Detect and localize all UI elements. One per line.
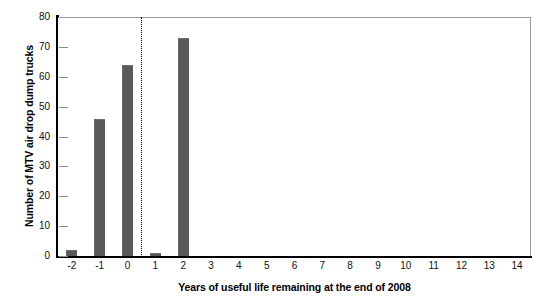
bars-layer xyxy=(58,17,531,256)
x-axis-tick-label: 1 xyxy=(140,259,170,273)
y-axis-tick xyxy=(59,196,68,197)
x-axis-tick-label: 2 xyxy=(168,259,198,273)
y-axis-tick-label: 0 xyxy=(0,251,50,261)
y-axis-tick-label: 40 xyxy=(0,132,50,142)
y-axis-tick-label: 10 xyxy=(0,221,50,231)
x-axis-tick-label: 5 xyxy=(252,259,282,273)
bar xyxy=(66,250,77,256)
x-axis-tick-label: 6 xyxy=(280,259,310,273)
y-axis-tick xyxy=(59,107,68,108)
y-axis-tick xyxy=(59,226,68,227)
y-axis-tick-label: 70 xyxy=(0,42,50,52)
y-axis-tick xyxy=(59,47,68,48)
x-axis-tick-label: 10 xyxy=(391,259,421,273)
bar xyxy=(94,119,105,256)
x-axis-tick-label: 0 xyxy=(113,259,143,273)
x-axis: -2-101234567891011121314 xyxy=(58,259,531,275)
bar xyxy=(150,253,161,256)
bar xyxy=(122,65,133,256)
x-axis-tick-label: 11 xyxy=(419,259,449,273)
y-axis-tick-label: 30 xyxy=(0,161,50,171)
bar-chart: Number of MTV air drop dump trucks -2-10… xyxy=(0,0,557,303)
x-axis-tick-label: 8 xyxy=(335,259,365,273)
x-axis-tick-label: -1 xyxy=(85,259,115,273)
x-axis-tick-label: -2 xyxy=(57,259,87,273)
y-axis-tick xyxy=(59,256,68,257)
reference-line-icon xyxy=(141,17,142,257)
y-axis-tick xyxy=(59,77,68,78)
x-axis-tick-label: 4 xyxy=(224,259,254,273)
x-axis-tick-label: 7 xyxy=(307,259,337,273)
x-axis-tick-label: 13 xyxy=(474,259,504,273)
y-axis-tick-label: 50 xyxy=(0,102,50,112)
x-axis-tick-label: 14 xyxy=(502,259,532,273)
bar xyxy=(178,38,189,256)
x-axis-tick-label: 3 xyxy=(196,259,226,273)
x-axis-tick-label: 12 xyxy=(446,259,476,273)
x-axis-title: Years of useful life remaining at the en… xyxy=(58,281,531,293)
y-axis-tick-label: 80 xyxy=(0,12,50,22)
y-axis-tick-label: 20 xyxy=(0,191,50,201)
x-axis-tick-label: 9 xyxy=(363,259,393,273)
y-axis-tick xyxy=(59,137,68,138)
y-axis-tick xyxy=(59,166,68,167)
y-axis-tick-label: 60 xyxy=(0,72,50,82)
